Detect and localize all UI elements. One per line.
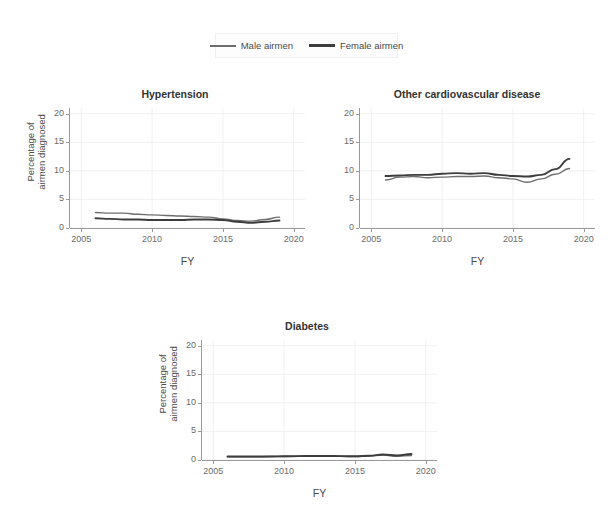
y-tick-label: 20 (172, 340, 196, 350)
y-tick-label: 10 (172, 397, 196, 407)
y-tick-label: 15 (40, 136, 64, 146)
y-tick-mark (66, 142, 69, 143)
panel-other-cardiovascular-disease: Other cardiovascular disease FY 05101520… (330, 88, 602, 280)
y-tick-label: 15 (172, 368, 196, 378)
x-tick-label: 2010 (132, 234, 172, 244)
legend-entry-male: Male airmen (210, 40, 293, 51)
x-tick-label: 2015 (493, 234, 533, 244)
x-axis-label-3: FY (202, 487, 437, 499)
y-tick-label: 0 (330, 222, 354, 232)
y-tick-label: 0 (40, 222, 64, 232)
x-tick-mark (284, 461, 285, 464)
y-tick-label: 10 (330, 165, 354, 175)
x-axis-line (70, 228, 305, 229)
plot-area-diabetes (202, 340, 437, 460)
legend-label-female: Female airmen (340, 40, 403, 51)
plot-canvas (360, 108, 595, 228)
y-tick-mark (356, 142, 359, 143)
plot-canvas (70, 108, 305, 228)
y-tick-label: 5 (330, 193, 354, 203)
chart-legend: Male airmen Female airmen (215, 33, 398, 58)
y-tick-mark (198, 460, 201, 461)
plot-area-hypertension (70, 108, 305, 228)
x-tick-mark (81, 229, 82, 232)
panel-hypertension: Hypertension Percentage of airmen diagno… (18, 88, 308, 280)
y-tick-mark (198, 346, 201, 347)
x-tick-label: 2005 (351, 234, 391, 244)
series-line-female (227, 454, 411, 457)
figure-root: Male airmen Female airmen Hypertension P… (0, 0, 612, 521)
y-tick-label: 20 (40, 108, 64, 118)
y-tick-mark (198, 431, 201, 432)
x-tick-label: 2015 (335, 466, 375, 476)
y-axis-line (359, 108, 360, 228)
y-tick-mark (356, 199, 359, 200)
y-tick-mark (356, 171, 359, 172)
x-tick-label: 2010 (264, 466, 304, 476)
y-tick-mark (356, 228, 359, 229)
x-axis-label: FY (70, 255, 305, 267)
x-axis-line (202, 460, 437, 461)
x-tick-label: 2020 (564, 234, 604, 244)
female-line-key-icon (309, 44, 335, 47)
y-tick-label: 5 (40, 193, 64, 203)
y-tick-label: 10 (40, 165, 64, 175)
y-tick-mark (66, 171, 69, 172)
x-tick-mark (513, 229, 514, 232)
x-tick-mark (213, 461, 214, 464)
x-tick-label: 2005 (61, 234, 101, 244)
x-tick-mark (152, 229, 153, 232)
x-tick-label: 2020 (406, 466, 446, 476)
x-tick-mark (442, 229, 443, 232)
y-tick-label: 15 (330, 136, 354, 146)
x-tick-mark (371, 229, 372, 232)
x-tick-label: 2010 (422, 234, 462, 244)
y-axis-line (69, 108, 70, 228)
y-tick-mark (66, 114, 69, 115)
panel-title-other-cardiovascular-disease: Other cardiovascular disease (342, 88, 592, 100)
y-tick-label: 20 (330, 108, 354, 118)
y-tick-mark (198, 403, 201, 404)
y-tick-mark (198, 374, 201, 375)
series-line-female (385, 159, 569, 177)
y-axis-line (201, 340, 202, 460)
y-tick-label: 5 (172, 425, 196, 435)
x-tick-mark (426, 461, 427, 464)
x-tick-mark (584, 229, 585, 232)
plot-area-other-cardiovascular-disease (360, 108, 595, 228)
x-tick-label: 2020 (274, 234, 314, 244)
x-tick-label: 2015 (203, 234, 243, 244)
panel-title-diabetes: Diabetes (182, 320, 432, 332)
x-tick-mark (223, 229, 224, 232)
y-tick-mark (66, 199, 69, 200)
x-axis-line (360, 228, 595, 229)
x-tick-mark (294, 229, 295, 232)
panel-diabetes: Diabetes Percentage of airmen diagnosed … (150, 320, 440, 512)
y-tick-mark (356, 114, 359, 115)
male-line-key-icon (210, 45, 236, 47)
plot-canvas (202, 340, 437, 460)
x-tick-mark (355, 461, 356, 464)
y-tick-label: 0 (172, 454, 196, 464)
x-axis-label-2: FY (360, 255, 595, 267)
y-tick-mark (66, 228, 69, 229)
x-tick-label: 2005 (193, 466, 233, 476)
legend-label-male: Male airmen (241, 40, 293, 51)
legend-entry-female: Female airmen (309, 40, 403, 51)
panel-title-hypertension: Hypertension (50, 88, 300, 100)
